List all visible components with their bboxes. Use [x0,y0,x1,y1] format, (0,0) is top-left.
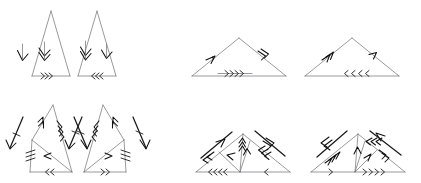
panel-3-right-side [239,38,286,76]
panel-7-left-markers [203,152,214,163]
panel-5-left-upper-markers [38,117,44,128]
panel-7-left-external-head [216,139,225,147]
panel-8-right-external-vector [370,131,401,155]
panel-8-left-cevian-marker [354,147,361,154]
panel-2-left-side [78,11,97,76]
panel-1 [18,11,71,79]
panel-4-base-markers [345,71,370,77]
panel-6-right-lower-markers [121,150,130,161]
panel-5-left-external-vector [10,117,23,148]
panel-4 [305,38,399,77]
panel-7 [196,131,290,175]
panel-3-left-side [192,38,239,76]
panel-8-left-external-vector [317,131,347,157]
panel-6-cevian-marker [105,153,112,159]
panel-7-left-external-vector [201,132,232,158]
panel-1-right-side [51,11,70,76]
panel-2 [78,11,116,79]
panel-5-left-lower-markers [26,150,35,161]
panel-6-right-upper-markers [113,117,119,128]
diagram-svg [0,0,421,183]
panel-8-left-external-head [321,137,332,150]
panel-5-cevian-marker [44,153,51,159]
panel-4-right-side [352,38,399,76]
panel-8-left-side [311,134,358,172]
panel-3 [192,38,286,77]
panel-1-left-side [32,11,51,76]
panel-5-cevian [32,140,72,172]
panel-8-right-cevian-markers [366,138,382,145]
panel-3-left-marker [206,56,215,64]
panel-8 [311,131,405,175]
panel-5 [6,105,91,175]
panel-6 [65,105,150,175]
panel-4-right-marker [369,53,377,60]
figure-canvas [0,0,421,183]
panel-2-right-side [97,11,116,76]
panel-7-mid-cevian-marker [227,153,235,160]
panel-7-left-side [196,134,243,172]
panel-6-cevian [84,140,124,172]
